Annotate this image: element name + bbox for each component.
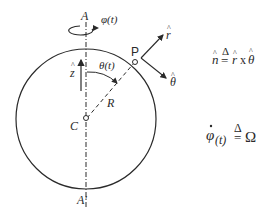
sphere-diagram: A A' φ(t) z ^ θ(t) R C P r ^ θ ^ n ^ Δ =… bbox=[0, 0, 273, 218]
svg-text:φ: φ bbox=[206, 127, 214, 143]
theta-arc bbox=[87, 72, 117, 83]
equation-n-definition: n ^ Δ = r ^ x θ ^ bbox=[212, 45, 255, 68]
radius-label: R bbox=[106, 96, 115, 110]
axis-label-top: A bbox=[80, 9, 89, 23]
point-p-label: P bbox=[131, 45, 139, 59]
theta-hat-caret: ^ bbox=[171, 71, 175, 80]
r-hat-caret: ^ bbox=[167, 24, 171, 33]
center-label: C bbox=[70, 119, 79, 133]
theta-hat-arrow bbox=[141, 58, 166, 78]
theta-label: θ(t) bbox=[99, 59, 115, 72]
svg-text:Ω: Ω bbox=[245, 129, 256, 145]
svg-text:(t): (t) bbox=[215, 133, 226, 147]
rotation-arrowhead-icon bbox=[93, 25, 99, 31]
z-hat-caret: ^ bbox=[71, 61, 75, 70]
point-p bbox=[133, 60, 138, 65]
svg-text:x: x bbox=[240, 53, 246, 67]
rotation-arrow-icon bbox=[69, 26, 93, 35]
phi-label: φ(t) bbox=[101, 13, 118, 26]
r-hat-arrow bbox=[141, 35, 163, 58]
svg-text:=: = bbox=[221, 53, 228, 68]
svg-text:=: = bbox=[234, 130, 241, 145]
axis-label-bottom: A' bbox=[76, 193, 87, 207]
equation-omega-definition: φ (t) Δ = Ω bbox=[206, 121, 256, 147]
svg-text:^: ^ bbox=[249, 47, 253, 56]
center-point bbox=[84, 116, 89, 121]
svg-text:^: ^ bbox=[213, 49, 217, 58]
svg-text:^: ^ bbox=[233, 49, 237, 58]
